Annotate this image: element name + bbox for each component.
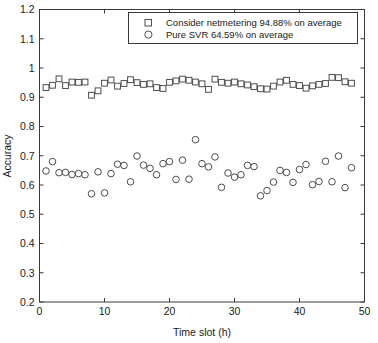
y-axis-title: Accuracy [1,134,13,178]
y-tick-label-2: 0.4 [20,237,35,249]
chart-canvas: 0.20.30.40.50.60.70.80.911.11.2 01020304… [0,0,378,343]
legend-label-1: Pure SVR 64.59% on average [166,29,293,40]
x-tick-label-4: 40 [294,305,306,317]
x-tick-label-3: 30 [229,305,241,317]
x-tick-label-5: 50 [359,305,371,317]
x-axis-title: Time slot (h) [173,326,231,338]
y-tick-label-10: 1.2 [20,3,35,15]
y-tick-label-8: 1 [29,62,35,74]
x-tick-label-0: 0 [37,305,43,317]
y-tick-label-9: 1.1 [20,33,35,45]
scatter-chart-figure: 0.20.30.40.50.60.70.80.911.11.2 01020304… [0,0,378,343]
x-tick-label-1: 10 [99,305,111,317]
y-tick-label-7: 0.9 [20,91,35,103]
y-tick-label-1: 0.3 [20,267,35,279]
y-tick-label-3: 0.5 [20,208,35,220]
legend-label-0: Consider netmetering 94.88% on average [166,17,342,28]
y-tick-label-6: 0.8 [20,120,35,132]
y-tick-label-4: 0.6 [20,179,35,191]
chart-legend[interactable]: Consider netmetering 94.88% on average P… [129,13,358,44]
x-tick-label-2: 20 [164,305,176,317]
y-tick-label-0: 0.2 [20,296,35,308]
chart-background [0,0,378,343]
y-tick-label-5: 0.7 [20,150,35,162]
